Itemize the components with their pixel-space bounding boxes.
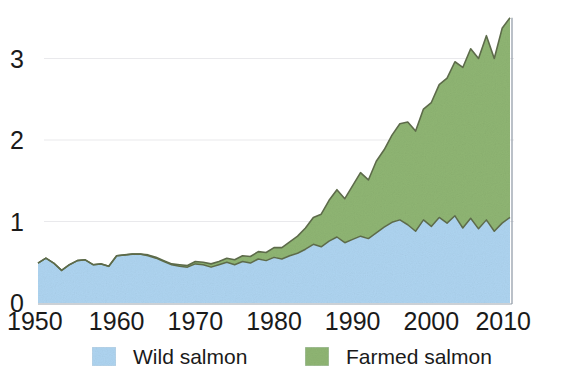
x-tick-label-1990: 1990 bbox=[325, 307, 381, 335]
y-tick-label-2: 2 bbox=[10, 126, 24, 154]
x-tick-label-2010: 2010 bbox=[475, 307, 531, 335]
y-tick-label-1: 1 bbox=[10, 208, 24, 236]
legend-swatch bbox=[305, 347, 329, 366]
chart-canvas: 0123 1950196019701980199020002010 Wild s… bbox=[0, 0, 566, 372]
legend-label: Farmed salmon bbox=[346, 345, 492, 368]
salmon-production-area-chart: 0123 1950196019701980199020002010 Wild s… bbox=[0, 0, 566, 372]
legend-swatch bbox=[92, 347, 116, 366]
x-tick-label-1950: 1950 bbox=[7, 307, 63, 335]
x-tick-label-1980: 1980 bbox=[246, 307, 302, 335]
legend-label: Wild salmon bbox=[133, 345, 247, 368]
x-tick-label-1960: 1960 bbox=[89, 307, 145, 335]
x-tick-label-2000: 2000 bbox=[404, 307, 460, 335]
y-tick-label-3: 3 bbox=[10, 45, 24, 73]
legend-item-wild-salmon[interactable]: Wild salmon bbox=[92, 345, 247, 368]
x-tick-label-1970: 1970 bbox=[168, 307, 224, 335]
